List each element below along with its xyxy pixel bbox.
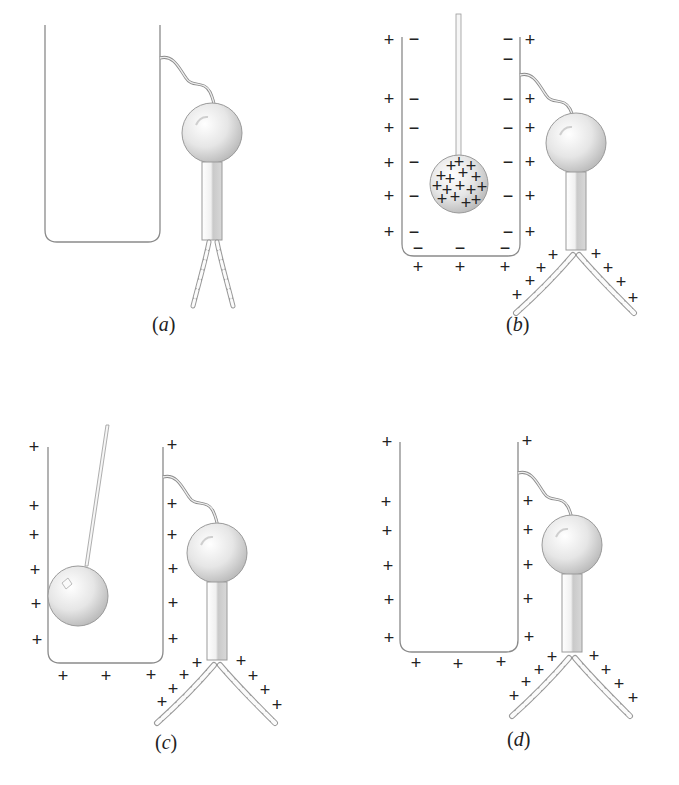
svg-text:+: +	[168, 593, 179, 613]
svg-text:−: −	[409, 118, 420, 138]
ball-c	[48, 566, 108, 626]
svg-text:+: +	[450, 187, 461, 207]
svg-text:+: +	[260, 680, 271, 700]
svg-text:+: +	[437, 189, 448, 209]
svg-text:+: +	[523, 555, 534, 575]
svg-text:+: +	[383, 556, 394, 576]
svg-text:+: +	[192, 653, 203, 673]
svg-text:+: +	[512, 285, 523, 305]
svg-text:+: +	[522, 431, 533, 451]
svg-text:+: +	[471, 190, 482, 210]
svg-text:+: +	[157, 692, 168, 712]
svg-text:+: +	[272, 695, 283, 715]
svg-text:−: −	[503, 89, 514, 109]
pail-c-left-charges: +++ +++	[29, 437, 43, 650]
svg-text:+: +	[29, 437, 40, 457]
svg-text:+: +	[384, 628, 395, 648]
pail-b-bottom-charges: −−− +++	[413, 238, 511, 277]
pail-b-right-charges: −+ − −+ −+ −+ −+ −+	[503, 29, 536, 242]
svg-text:+: +	[384, 118, 395, 138]
svg-text:+: +	[496, 652, 507, 672]
svg-text:+: +	[146, 665, 157, 685]
svg-text:+: +	[168, 629, 179, 649]
svg-text:+: +	[29, 496, 40, 516]
svg-text:+: +	[384, 153, 395, 173]
svg-text:+: +	[614, 674, 625, 694]
svg-text:+: +	[248, 666, 259, 686]
svg-text:+: +	[523, 520, 534, 540]
svg-text:−: −	[409, 29, 420, 49]
svg-text:+: +	[591, 244, 602, 264]
pail-a	[45, 25, 160, 242]
svg-text:+: +	[168, 679, 179, 699]
svg-text:−: −	[503, 152, 514, 172]
svg-text:+: +	[525, 271, 536, 291]
pail-c-right-charges: +++ +++	[167, 435, 179, 649]
svg-text:+: +	[381, 492, 392, 512]
svg-text:+: +	[382, 521, 393, 541]
svg-text:+: +	[589, 646, 600, 666]
svg-text:+: +	[384, 590, 395, 610]
pail-d	[400, 442, 518, 652]
panel-label-d: (d)	[507, 728, 530, 751]
electroscope-d	[542, 515, 602, 652]
svg-text:+: +	[603, 258, 614, 278]
pail-d-left-charges: +++ +++	[381, 432, 395, 648]
svg-text:−: −	[409, 89, 420, 109]
svg-text:+: +	[521, 672, 532, 692]
svg-text:+: +	[616, 272, 627, 292]
svg-text:+: +	[168, 559, 179, 579]
insulating-rod-b	[456, 14, 461, 156]
svg-text:+: +	[525, 186, 536, 206]
svg-text:+: +	[167, 435, 178, 455]
svg-text:+: +	[536, 258, 547, 278]
svg-text:−: −	[409, 152, 420, 172]
svg-text:+: +	[384, 186, 395, 206]
ice-pail-figure: +++ ++++ +++++ ++++ +− +− +− +− +− +− −+…	[0, 0, 679, 785]
panel-b: +++ ++++ +++++ ++++ +− +− +− +− +− +− −+…	[384, 14, 639, 313]
svg-text:+: +	[525, 222, 536, 242]
svg-text:+: +	[384, 222, 395, 242]
svg-text:−: −	[503, 49, 514, 69]
svg-text:+: +	[29, 525, 40, 545]
panel-label-b: (b)	[506, 313, 529, 336]
svg-text:+: +	[31, 594, 42, 614]
svg-text:+: +	[32, 630, 43, 650]
pail-d-right-charges: +++ +++	[522, 431, 535, 647]
svg-text:+: +	[384, 30, 395, 50]
pail-d-bottom-charges: +++	[411, 652, 507, 674]
svg-text:+: +	[525, 89, 536, 109]
electroscope-a	[182, 103, 242, 240]
svg-text:−: −	[503, 186, 514, 206]
svg-text:−: −	[413, 238, 424, 258]
svg-text:+: +	[236, 651, 247, 671]
svg-text:+: +	[167, 525, 178, 545]
svg-text:+: +	[547, 647, 558, 667]
panel-c: +++ +++ +++ +++ +++ ++++ ++++	[29, 425, 283, 723]
svg-text:+: +	[534, 660, 545, 680]
svg-text:−: −	[409, 186, 420, 206]
svg-text:−: −	[503, 29, 514, 49]
svg-text:+: +	[509, 686, 520, 706]
svg-text:+: +	[628, 688, 639, 708]
svg-text:−: −	[455, 238, 466, 258]
ball-positive-charges: +++ ++++ +++++ ++++	[432, 152, 488, 213]
panel-label-c: (c)	[155, 731, 177, 754]
svg-text:+: +	[455, 257, 466, 277]
electroscope-b	[546, 113, 606, 250]
svg-text:+: +	[524, 627, 535, 647]
svg-text:+: +	[58, 666, 69, 686]
svg-text:−: −	[500, 238, 511, 258]
pail-c-bottom-charges: +++	[58, 665, 157, 686]
svg-text:+: +	[525, 30, 536, 50]
electroscope-c	[187, 523, 247, 660]
svg-text:+: +	[523, 491, 534, 511]
svg-text:+: +	[461, 193, 472, 213]
electroscope-leaves-a	[193, 242, 233, 306]
svg-text:+: +	[523, 589, 534, 609]
svg-text:+: +	[500, 257, 511, 277]
svg-text:+: +	[525, 118, 536, 138]
svg-text:+: +	[382, 432, 393, 452]
panel-a	[45, 25, 242, 306]
svg-text:+: +	[384, 89, 395, 109]
